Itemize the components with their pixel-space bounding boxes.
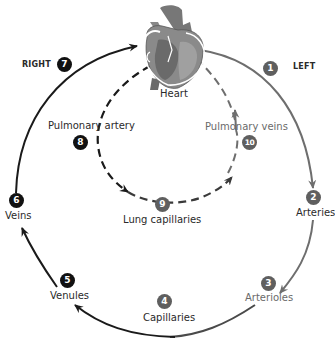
step-badge-6: 6 xyxy=(9,193,24,208)
step-badge-4: 4 xyxy=(157,294,172,309)
capillaries-label: Capillaries xyxy=(143,312,195,324)
step-badge-5: 5 xyxy=(60,273,75,288)
right-side-label: RIGHT xyxy=(22,59,51,71)
step-badge-2: 2 xyxy=(306,190,321,205)
step-badge-10: 10 xyxy=(242,135,257,150)
arterioles-label: Arterioles xyxy=(245,292,293,304)
step-badge-1: 1 xyxy=(263,61,278,76)
step-badge-9: 9 xyxy=(155,197,170,212)
pulmonary-artery-label: Pulmonary artery xyxy=(48,120,135,132)
step-badge-8: 8 xyxy=(73,135,88,150)
heart-icon xyxy=(142,5,204,90)
pulmonary-veins-label: Pulmonary veins xyxy=(205,121,288,133)
arteries-label: Arteries xyxy=(296,207,335,219)
venules-label: Venules xyxy=(50,290,89,302)
left-side-label: LEFT xyxy=(293,61,315,73)
step-badge-7: 7 xyxy=(57,57,72,72)
heart-label: Heart xyxy=(160,88,188,100)
step-badge-3: 3 xyxy=(261,276,276,291)
lung-capillaries-label: Lung capillaries xyxy=(123,214,201,226)
veins-label: Veins xyxy=(5,210,32,222)
